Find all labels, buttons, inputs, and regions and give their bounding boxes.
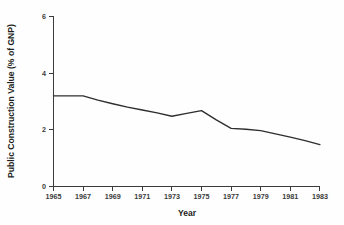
y-tick-label-2: 2 — [42, 125, 46, 134]
data-series-line — [54, 96, 320, 145]
x-tick-label-1973: 1973 — [164, 192, 180, 201]
y-tick-label-4: 4 — [42, 69, 46, 78]
x-axis: 1965 1967 1969 1971 1973 1975 1977 1979 … — [46, 187, 328, 219]
line-chart: 6 4 2 0 Public Construction Value (% of … — [0, 0, 344, 225]
x-tick-label-1967: 1967 — [75, 192, 91, 201]
x-tick-label-1979: 1979 — [253, 192, 269, 201]
x-tick-label-1969: 1969 — [105, 192, 121, 201]
y-tick-label-0: 0 — [42, 182, 46, 191]
y-tick-label-6: 6 — [42, 12, 46, 21]
x-axis-ticks — [54, 187, 320, 191]
x-tick-label-1975: 1975 — [194, 192, 210, 201]
x-tick-label-1971: 1971 — [134, 192, 150, 201]
x-axis-title: Year — [178, 208, 197, 218]
x-tick-label-1983: 1983 — [312, 192, 328, 201]
x-tick-label-1965: 1965 — [46, 192, 62, 201]
chart-figure: 6 4 2 0 Public Construction Value (% of … — [0, 0, 344, 225]
y-axis-ticks — [49, 17, 54, 187]
y-axis-title: Public Construction Value (% of GNP) — [6, 24, 16, 178]
x-tick-label-1977: 1977 — [223, 192, 239, 201]
y-axis: 6 4 2 0 Public Construction Value (% of … — [6, 12, 54, 191]
x-tick-label-1981: 1981 — [282, 192, 298, 201]
